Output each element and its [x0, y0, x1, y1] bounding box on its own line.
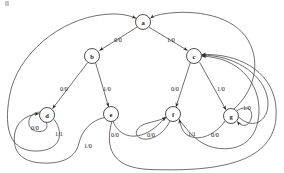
edge-label-f-self: 0/0 [147, 131, 155, 138]
edge-label-b-d: 0/0 [60, 85, 68, 92]
edge-label-d-a: 1/1 [55, 130, 63, 137]
state-node-e[interactable]: e [104, 107, 119, 122]
edge-b-to-d [53, 63, 88, 109]
state-node-f[interactable]: f [166, 107, 181, 122]
state-node-c[interactable]: c [187, 49, 202, 64]
edge-label-e-d: 1/0 [84, 142, 92, 149]
state-label-e: e [110, 111, 113, 118]
state-machine-diagram: a b c d e f g 0/0 1/0 0/0 [0, 0, 284, 173]
edge-label-f-c: 1/1 [188, 130, 196, 137]
state-label-d: d [45, 112, 49, 119]
diagram-canvas: a b c d e f g 0/0 1/0 0/0 [0, 0, 284, 173]
state-node-d[interactable]: d [40, 108, 55, 123]
edge-label-e-f: 0/0 [111, 131, 119, 138]
edge-label-c-g: 1/0 [217, 85, 225, 92]
state-node-b[interactable]: b [85, 49, 100, 64]
edge-label-a-c: 1/0 [167, 36, 175, 43]
edge-label-b-e: 1/0 [103, 85, 111, 92]
state-node-a[interactable]: a [136, 15, 151, 30]
edge-label-g-f: 0/0 [211, 131, 219, 138]
edge-label-a-b: 0/0 [114, 36, 122, 43]
edge-label-c-f: 0/0 [171, 85, 179, 92]
edge-label-d-self: 0/0 [31, 124, 39, 131]
state-node-g[interactable]: g [224, 109, 239, 124]
state-label-b: b [90, 53, 94, 60]
edge-label-g-self: 1/0 [243, 104, 251, 111]
state-label-c: c [193, 53, 196, 60]
